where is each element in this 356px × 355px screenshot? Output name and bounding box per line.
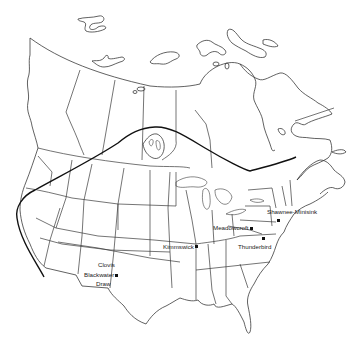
site-thunderbird: Thunderbird <box>238 237 272 250</box>
site-label-kimmswick: Kimmswick <box>163 243 195 250</box>
site-label-clovis-1: Clovis <box>98 261 115 268</box>
site-label-shawnee-minisink: Shawnee-Minisink <box>267 208 318 215</box>
canada <box>27 38 346 194</box>
arctic-islands <box>78 16 278 94</box>
site-meadowcroft: Meadowcroft <box>213 224 253 231</box>
site-label-clovis-3: Draw <box>96 280 111 287</box>
north-america-map: Clovis Blackwater Draw Kimmswick Meadowc… <box>0 0 356 355</box>
site-label-meadowcroft: Meadowcroft <box>213 224 249 231</box>
site-kimmswick: Kimmswick <box>163 243 198 250</box>
site-shawnee-minisink: Shawnee-Minisink <box>267 208 318 222</box>
site-label-thunderbird: Thunderbird <box>238 243 272 250</box>
site-label-clovis-2: Blackwater <box>84 271 114 278</box>
great-lakes <box>176 177 264 215</box>
united-states <box>20 148 328 333</box>
site-clovis: Clovis Blackwater Draw <box>84 261 118 287</box>
